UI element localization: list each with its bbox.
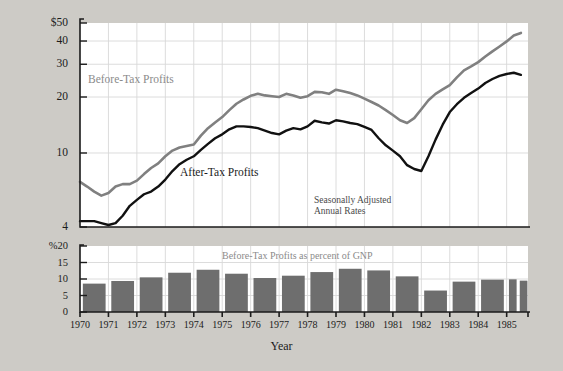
bottom-ytick-label: %20 (10, 241, 68, 252)
top-ytick-label: 30 (10, 58, 68, 70)
top-ytick-label: 20 (10, 91, 68, 103)
bottom-panel-title: Before-Tax Profits as percent of GNP (222, 249, 373, 262)
xtick-label: 1985 (489, 320, 525, 330)
annotation-sar-line2: Annual Rates (314, 206, 391, 217)
annotation-sar-line1: Seasonally Adjusted (314, 195, 391, 206)
bottom-ytick-label: 5 (10, 291, 68, 302)
top-ytick-label: 40 (10, 35, 68, 47)
bottom-ytick-label: 0 (10, 307, 68, 318)
bottom-ytick-label: 15 (10, 258, 68, 269)
chart-figure: Billions of Dollars (ratio scale) $50403… (0, 0, 563, 371)
top-panel-axis-spine (70, 16, 540, 236)
bottom-ytick-label: 10 (10, 274, 68, 285)
series-label-after-tax: After-Tax Profits (180, 166, 258, 179)
annotation-seasonally-adjusted: Seasonally Adjusted Annual Rates (314, 195, 391, 217)
xaxis-label: Year (0, 339, 563, 354)
top-ytick-label: 10 (10, 147, 68, 159)
top-ytick-label: 4 (10, 221, 68, 233)
series-label-before-tax: Before-Tax Profits (88, 73, 174, 86)
top-panel-ytick-marks (70, 16, 100, 236)
top-ytick-label: $50 (10, 17, 68, 29)
